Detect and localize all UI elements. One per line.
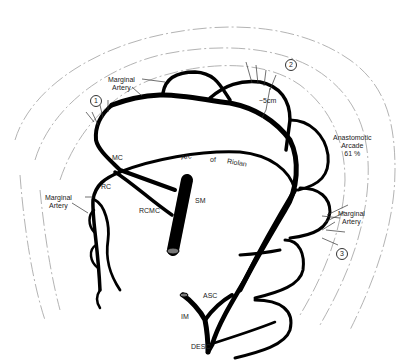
label-line: Artery xyxy=(45,202,72,210)
diagram-canvas: Marginal Artery Marginal Artery Marginal… xyxy=(0,0,413,364)
marginal-artery-right-label: Marginal Artery xyxy=(338,210,365,226)
label-line: 61 % xyxy=(333,150,372,158)
label-line: Artery xyxy=(338,218,365,226)
artery-diagram xyxy=(0,0,413,364)
label-line: Artery xyxy=(108,84,135,92)
marker-3: 3 xyxy=(336,248,348,260)
sm-label: SM xyxy=(195,197,206,205)
superior-mesenteric-stump xyxy=(167,180,187,254)
rc-label: RC xyxy=(101,183,111,191)
asc-label: ASC xyxy=(203,292,217,300)
marginal-artery-top-label: Marginal Artery xyxy=(108,76,135,92)
inferior-mesenteric-stump xyxy=(180,293,188,297)
desc-label: DESC xyxy=(191,343,210,351)
of-word-label: of xyxy=(210,156,216,164)
arc-word-label: Arc xyxy=(180,152,192,161)
mc-label: MC xyxy=(112,154,123,162)
marker-2: 2 xyxy=(285,59,297,71)
label-line: Marginal xyxy=(338,210,365,218)
label-line: Anastomotic xyxy=(333,134,372,142)
distance-label: ~5cm xyxy=(259,97,276,105)
vessels xyxy=(90,72,331,358)
marginal-artery-left-label: Marginal Artery xyxy=(45,194,72,210)
anastomotic-arcade-label: Anastomotic Arcade 61 % xyxy=(333,134,372,158)
marker-1: 1 xyxy=(90,95,102,107)
label-line: Arcade xyxy=(333,142,372,150)
label-line: Marginal xyxy=(108,76,135,84)
im-label: IM xyxy=(181,313,189,321)
rcmc-label: RCMC xyxy=(139,207,160,215)
label-line: Marginal xyxy=(45,194,72,202)
